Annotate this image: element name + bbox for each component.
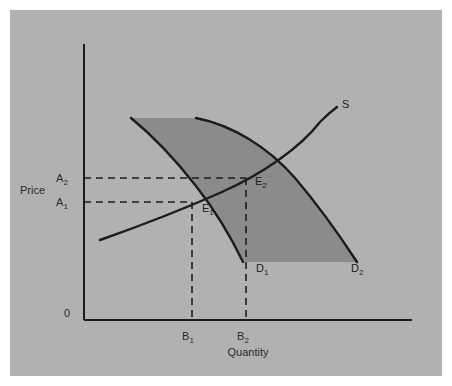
figure-root: Price Quantity 0 A2 A1 B1 B2 S D1 D2 E1 — [0, 0, 452, 386]
demand-curve-d2-label: D2 — [351, 262, 364, 277]
x-tick-b2: B2 — [237, 330, 249, 345]
guide-lines-equilibrium-1 — [84, 202, 192, 320]
y-axis-title: Price — [20, 184, 45, 196]
origin-label: 0 — [64, 307, 70, 319]
supply-demand-chart: Price Quantity 0 A2 A1 B1 B2 S D1 D2 E1 — [0, 0, 452, 386]
x-axis-title: Quantity — [228, 346, 269, 358]
x-tick-b1: B1 — [182, 330, 194, 345]
y-tick-a2: A2 — [56, 172, 68, 187]
demand-curve-d1-label: D1 — [256, 262, 269, 277]
y-tick-a1: A1 — [56, 196, 68, 211]
supply-curve-label: S — [342, 98, 349, 110]
shaded-demand-shift-band — [131, 118, 357, 262]
